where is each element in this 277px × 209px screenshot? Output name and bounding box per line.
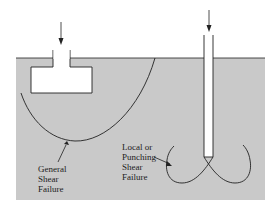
pile-load-arrow-icon [207, 10, 212, 32]
bearing-failure-diagram: General Shear Failure Local or Punching … [0, 0, 277, 209]
footing-load-arrow-icon [59, 22, 64, 45]
pile [204, 35, 213, 157]
footing [31, 50, 92, 93]
